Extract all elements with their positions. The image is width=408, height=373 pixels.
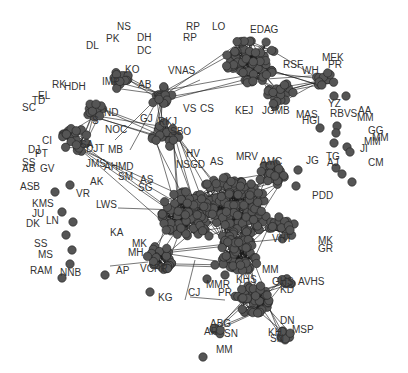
graph-node [211,261,219,269]
graph-node [239,68,247,76]
graph-node [280,81,288,89]
graph-node [221,221,229,229]
node-label: LN [46,215,59,226]
graph-node [257,167,265,175]
graph-node [227,177,235,185]
node-label: IMP [102,76,120,87]
node-label: MH [128,247,144,258]
graph-node [289,88,297,96]
graph-node [329,78,337,86]
graph-node [242,244,250,252]
node-label: PT [35,148,48,159]
graph-node [263,291,271,299]
graph-node [330,139,338,147]
node-label: RP [186,21,200,32]
graph-node [225,190,233,198]
node-label: WH [302,65,319,76]
graph-node [268,222,276,230]
graph-node [338,170,346,178]
graph-node [254,198,262,206]
graph-node [82,131,90,139]
graph-node [224,238,232,246]
node-label: CJ [188,287,200,298]
node-label: DC [137,45,151,56]
node-label: DH [137,32,151,43]
graph-node [233,211,241,219]
node-label: AB [138,79,152,90]
network-graph: NSPKDLDHDCKOIMPABVNASRKHDHELTDSCNDSGJRKJ… [0,0,408,373]
graph-node [152,136,160,144]
node-label: NNB [60,267,81,278]
graph-node [92,100,100,108]
graph-node [236,182,244,190]
graph-node [72,127,80,135]
node-label: DJT [86,143,104,154]
graph-node [101,271,109,279]
node-label: PK [106,33,120,44]
graph-node [146,288,154,296]
graph-node [240,201,248,209]
graph-node [68,246,76,254]
graph-node [332,129,340,137]
graph-node [246,191,254,199]
graph-node [318,81,326,89]
node-label: GJ [140,113,153,124]
node-label: AS [210,156,224,167]
node-label: ND [104,107,118,118]
graph-node [177,224,185,232]
node-label: CM [368,157,384,168]
graph-node [294,166,302,174]
node-label: PR [328,59,342,70]
graph-node [223,51,231,59]
graph-node [249,216,257,224]
node-label: SM [118,171,133,182]
graph-node [155,95,163,103]
node-label: AR [204,326,218,337]
node-label: MM [216,344,233,355]
graph-node [242,228,250,236]
graph-node [234,191,242,199]
node-label: SG [138,182,153,193]
node-label: AP [116,265,130,276]
node-label: AB [22,163,36,174]
graph-node [230,201,238,209]
graph-node [69,218,77,226]
graph-node [51,188,59,196]
graph-node [181,211,189,219]
graph-node [231,47,239,55]
node-label: VHT [272,233,292,244]
node-label: VS [183,103,197,114]
graph-node [239,294,247,302]
node-label: VNAS [168,65,196,76]
graph-node [158,210,166,218]
node-label: S [92,115,99,126]
graph-node [249,77,257,85]
graph-node [169,136,177,144]
node-label: AMC [260,156,282,167]
node-label: DL [86,40,99,51]
node-label: NS [117,21,131,32]
node-label: ASB [20,181,40,192]
node-label: MRV [236,151,258,162]
graph-node [200,202,208,210]
graph-node [221,271,229,279]
graph-node [222,252,230,260]
graph-node [183,199,191,207]
node-label: VCPR [140,263,168,274]
node-label: NSGD [176,159,205,170]
graph-node [229,262,237,270]
node-label: KG [158,292,173,303]
graph-node [238,305,246,313]
graph-node [252,259,260,267]
graph-node [182,188,190,196]
graph-svg: NSPKDLDHDCKOIMPABVNASRKHDHELTDSCNDSGJRKJ… [0,0,408,373]
graph-node [162,252,170,260]
node-label: GR [318,243,333,254]
node-label: PR [218,287,232,298]
graph-node [222,62,230,70]
graph-node [292,182,300,190]
graph-node [143,252,151,260]
graph-node [254,309,262,317]
node-label: VR [76,188,90,199]
node-label: GV [40,163,55,174]
